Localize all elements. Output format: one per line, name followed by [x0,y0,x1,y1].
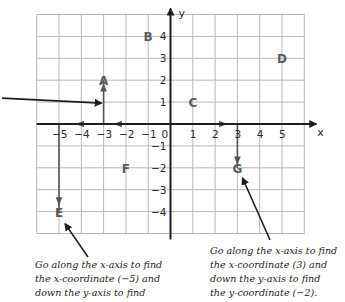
point-f: F [122,162,130,176]
annotation-g: Go along the x-axis to find the x-coordi… [210,244,337,300]
point-c: C [188,96,197,110]
annotation-e: Go along the x-axis to find the x-coordi… [35,258,162,300]
x-tick-label: −4 [74,128,90,140]
annotation-g-line: the x-coordinate (3) and [210,258,337,272]
y-tick-label: 4 [160,30,167,42]
point-e: E [55,206,63,220]
x-tick-label: 2 [212,128,219,140]
x-tick-label: 3 [234,128,241,140]
y-tick-label: 2 [160,74,167,86]
annotation-g-line: the y-coordinate (−2). [210,286,337,300]
x-tick-label: 1 [190,128,197,140]
point-d: D [277,52,287,66]
x-tick-label: −3 [97,128,112,140]
x-tick-label: 4 [257,128,264,140]
annotation-g-line: down the y-axis to find [210,272,337,286]
annotation-e-line: the x-coordinate (−5) and [35,272,162,286]
annotation-e-line: Go along the x-axis to find [35,258,162,272]
y-tick-label: −3 [151,184,166,196]
x-tick-label: 5 [279,128,286,140]
x-axis-label: x [317,126,324,139]
y-axis-label: y [179,7,186,20]
y-tick-label: 1 [160,96,167,108]
y-tick-label: −4 [151,206,167,218]
annotation-g-line: Go along the x-axis to find [210,244,337,258]
guide-arrowhead-e [56,197,63,205]
x-tick-label: −5 [52,128,67,140]
y-tick-label: 3 [160,52,167,64]
y-tick-label: −1 [151,140,166,152]
x-tick-label: −1 [141,128,156,140]
x-tick-label: −2 [119,128,134,140]
point-a: A [99,74,109,88]
point-g: G [232,162,242,176]
y-tick-label: −2 [151,162,166,174]
axes: xy [37,7,325,240]
point-b: B [144,30,153,44]
pointer-arrow-g [242,178,270,240]
x-tick-label: 0 [162,128,169,140]
annotation-e-line: down the y-axis to find [35,286,162,300]
pointer-arrow-e [65,224,88,257]
